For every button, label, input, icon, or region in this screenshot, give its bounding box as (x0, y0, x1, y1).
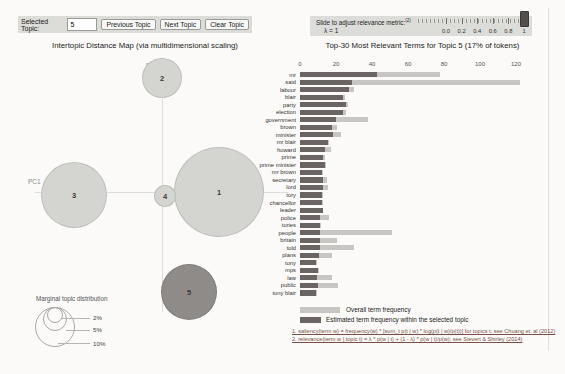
topic-frequency-bar[interactable] (300, 200, 322, 205)
slider-handle[interactable] (520, 11, 529, 27)
term-label: tony blair (228, 290, 296, 296)
slider-major-tick (462, 18, 463, 24)
term-label: prime (228, 154, 296, 160)
previous-topic-button[interactable]: Previous Topic (101, 19, 155, 30)
footnote-relevance: 2. relevance(term w | topic t) = λ * p(w… (292, 336, 554, 342)
topic-frequency-bar[interactable] (300, 185, 323, 190)
term-label: tory (228, 192, 296, 198)
x-axis-tick-40: 40 (362, 61, 382, 67)
topic-frequency-bar[interactable] (300, 80, 352, 85)
topic-frequency-bar[interactable] (300, 283, 318, 288)
term-label: britain (228, 237, 296, 243)
slider-major-tick (493, 18, 494, 24)
term-label: minister (228, 132, 296, 138)
term-label: chancellor (228, 200, 296, 206)
term-label: party (228, 102, 296, 108)
legend-circle-2pct (47, 307, 63, 323)
topic-circle-5[interactable]: 5 (161, 264, 217, 320)
topic-frequency-bar[interactable] (300, 290, 316, 295)
term-label: law (228, 275, 296, 281)
slider-tick-label: 0.6 (485, 28, 501, 34)
term-label: secretary (228, 177, 296, 183)
topic-frequency-bar[interactable] (300, 238, 320, 243)
slider-tick-label: 0.8 (500, 28, 516, 34)
term-label: government (228, 117, 296, 123)
map-x-axis-label: PC1 (28, 178, 41, 185)
topic-frequency-bar[interactable] (300, 117, 336, 122)
topic-frequency-bar[interactable] (300, 268, 318, 273)
legend-size-label-10pct: 10% (93, 340, 105, 347)
term-label: labour (228, 87, 296, 93)
term-label: people (228, 230, 296, 236)
topic-frequency-bar[interactable] (300, 223, 320, 228)
topic-frequency-bar[interactable] (300, 102, 346, 107)
next-topic-button[interactable]: Next Topic (160, 19, 202, 30)
topic-frequency-bar[interactable] (300, 177, 323, 182)
topic-circle-3[interactable]: 3 (41, 162, 107, 228)
topic-circle-label: 1 (217, 188, 221, 197)
selected-topic-input[interactable] (67, 18, 97, 31)
x-axis-tick-80: 80 (434, 61, 454, 67)
topic-circle-label: 5 (187, 288, 191, 297)
term-label: mr blair (228, 139, 296, 145)
legend-size-label-5pct: 5% (93, 326, 102, 333)
legend-leader-line (58, 343, 90, 344)
topic-frequency-bar[interactable] (300, 208, 323, 213)
x-axis-tick-60: 60 (398, 61, 418, 67)
term-label: mr brown (228, 169, 296, 175)
topic-frequency-bar[interactable] (300, 72, 377, 77)
slider-track[interactable] (418, 19, 528, 23)
relevance-slider-label: Slide to adjust relevance metric:(2) (316, 18, 411, 26)
clear-topic-button[interactable]: Clear Topic (205, 19, 249, 30)
footnote-saliency: 1. saliency(term w) = frequency(w) * [su… (292, 328, 554, 334)
topic-frequency-bar[interactable] (300, 147, 325, 152)
topic-frequency-bar[interactable] (300, 95, 343, 100)
page-rule (548, 8, 549, 351)
topic-frequency-bar[interactable] (300, 275, 317, 280)
topic-frequency-bar[interactable] (300, 132, 333, 137)
term-label: tories (228, 222, 296, 228)
topic-frequency-bar[interactable] (300, 192, 322, 197)
lambda-value-label: λ = 1 (324, 27, 338, 34)
marginal-topic-distribution-title: Marginal topic distribution (36, 295, 107, 302)
term-label: said (228, 79, 296, 85)
slider-major-tick (508, 18, 509, 24)
slider-tick-label: 0.0 (438, 28, 454, 34)
term-label: blair (228, 94, 296, 100)
topic-frequency-bar[interactable] (300, 110, 343, 115)
bar-chart-title: Top-30 Most Relevant Terms for Topic 5 (… (295, 41, 550, 50)
legend-leader-line (66, 330, 90, 331)
topic-frequency-bar[interactable] (300, 125, 332, 130)
term-label: mr (228, 72, 296, 78)
topic-frequency-label: Estimated term frequency within the sele… (326, 316, 468, 323)
topic-frequency-bar[interactable] (300, 162, 325, 167)
topic-circle-label: 2 (160, 74, 164, 83)
x-axis-tick-20: 20 (326, 61, 346, 67)
topic-frequency-bar[interactable] (300, 87, 349, 92)
term-label: public (228, 282, 296, 288)
topic-frequency-bar[interactable] (300, 140, 328, 145)
term-label: howard (228, 147, 296, 153)
topic-frequency-bar[interactable] (300, 253, 319, 258)
topic-frequency-bar[interactable] (300, 170, 322, 175)
slider-tick-label: 0.4 (469, 28, 485, 34)
topic-circle-label: 4 (163, 192, 167, 201)
term-label: tony (228, 260, 296, 266)
slider-major-tick (446, 18, 447, 24)
slider-major-tick (477, 18, 478, 24)
x-axis-tick-0: 0 (290, 61, 310, 67)
topic-frequency-bar[interactable] (300, 155, 323, 160)
term-label: lord (228, 184, 296, 190)
selected-topic-label: Selected Topic: (21, 18, 63, 32)
map-title: Intertopic Distance Map (via multidimens… (0, 41, 290, 50)
overall-frequency-swatch (300, 307, 340, 313)
legend-size-label-2pct: 2% (93, 314, 102, 321)
topic-frequency-bar[interactable] (300, 260, 316, 265)
topic-frequency-bar[interactable] (300, 215, 320, 220)
topic-circle-label: 3 (72, 191, 76, 200)
term-label: prime minister (228, 162, 296, 168)
topic-circle-2[interactable]: 2 (142, 58, 182, 98)
topic-circle-4[interactable]: 4 (154, 185, 176, 207)
topic-frequency-bar[interactable] (300, 245, 320, 250)
topic-frequency-bar[interactable] (300, 230, 320, 235)
